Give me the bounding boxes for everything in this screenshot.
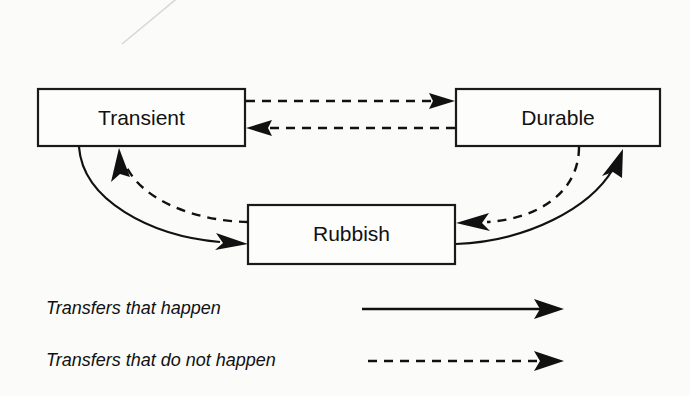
edge-durable-to-transient[interactable] bbox=[246, 120, 455, 136]
edge-durable-to-transient-arrowhead bbox=[246, 120, 272, 136]
edge-rubbish-to-transient-arrowhead bbox=[111, 148, 130, 182]
edge-transient-to-rubbish[interactable] bbox=[79, 147, 248, 250]
edge-rubbish-to-transient[interactable] bbox=[111, 148, 248, 222]
edge-transient-to-durable[interactable] bbox=[246, 93, 455, 109]
edge-rubbish-to-transient-line bbox=[126, 166, 248, 222]
legend-item-happen: Transfers that happen bbox=[46, 298, 564, 319]
node-transient-label: Transient bbox=[98, 106, 185, 129]
legend-not-happen-label: Transfers that do not happen bbox=[46, 350, 276, 370]
legend-not-happen-arrowhead bbox=[534, 351, 564, 371]
node-rubbish[interactable]: Rubbish bbox=[248, 205, 455, 264]
edge-durable-to-rubbish-line bbox=[487, 147, 579, 222]
diagram-canvas: Transient Durable Rubbish bbox=[0, 0, 690, 396]
edge-durable-to-rubbish[interactable] bbox=[456, 147, 579, 231]
node-rubbish-label: Rubbish bbox=[313, 222, 390, 245]
edge-durable-to-rubbish-arrowhead bbox=[456, 213, 490, 231]
edge-rubbish-to-durable-line bbox=[456, 169, 613, 244]
node-durable[interactable]: Durable bbox=[456, 89, 660, 146]
edge-rubbish-to-durable[interactable] bbox=[456, 149, 623, 244]
edge-transient-to-durable-arrowhead bbox=[429, 93, 455, 109]
edge-transient-to-rubbish-line bbox=[79, 147, 220, 242]
node-durable-label: Durable bbox=[521, 106, 595, 129]
legend-item-not-happen: Transfers that do not happen bbox=[46, 350, 564, 371]
node-transient[interactable]: Transient bbox=[38, 89, 245, 146]
scan-artifact-line bbox=[122, 0, 180, 44]
diagram-svg: Transient Durable Rubbish bbox=[0, 0, 690, 396]
legend-happen-label: Transfers that happen bbox=[46, 298, 221, 318]
edge-rubbish-to-durable-arrowhead bbox=[602, 149, 623, 178]
